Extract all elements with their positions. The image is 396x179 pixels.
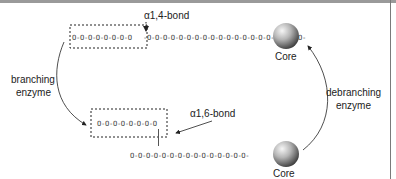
- bottom-main-chain: O-O-O-O-O-O-O-O-O-O-O-O-O-O-O-: [130, 151, 249, 160]
- debranching-enzyme-arrow: debranching enzyme: [303, 46, 381, 150]
- bottom-glycogen-molecule: O-O-O-O-O-O-O-O O-O-O-O-O-O-O-O-O-O-O-O-…: [91, 108, 299, 179]
- branch-chain: O-O-O-O-O-O-O-O: [97, 119, 157, 128]
- top-core-label: Core: [275, 51, 297, 62]
- debranching-label-line2: enzyme: [336, 100, 371, 111]
- alpha16-bond-label: α1,6-bond: [190, 108, 235, 119]
- top-chain-boxed: O-O-O-O-O-O-O-O: [72, 33, 132, 42]
- debranching-arrow-path: [303, 46, 328, 150]
- bottom-core-sphere: [273, 141, 299, 167]
- glycogen-diagram: O-O-O-O-O-O-O-O -O-O-O-O-O-O-O-O-O-O-O-O…: [0, 0, 396, 179]
- alpha14-bond-label: α1,4-bond: [144, 10, 189, 21]
- debranching-label-line1: debranching: [326, 87, 381, 98]
- top-core-sphere: [273, 23, 299, 49]
- top-glycogen-molecule: O-O-O-O-O-O-O-O -O-O-O-O-O-O-O-O-O-O-O-O…: [70, 10, 306, 62]
- branching-enzyme-arrow: branching enzyme: [11, 42, 86, 125]
- branching-label-line1: branching: [11, 74, 55, 85]
- alpha16-bond-pointer: [176, 121, 212, 133]
- bottom-core-label: Core: [273, 168, 295, 179]
- branching-arrow-path: [57, 42, 86, 125]
- branching-label-line2: enzyme: [16, 87, 51, 98]
